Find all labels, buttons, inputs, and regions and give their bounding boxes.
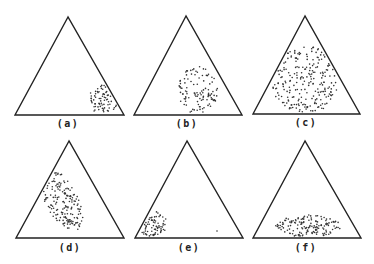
data-point <box>275 225 277 227</box>
data-point <box>296 57 298 59</box>
data-point <box>65 198 67 200</box>
data-point <box>157 234 159 236</box>
panel-label: (b) <box>176 118 199 129</box>
data-point <box>163 229 165 231</box>
data-point <box>157 223 159 225</box>
data-point <box>312 65 314 67</box>
data-point <box>160 228 162 230</box>
data-point <box>147 231 149 233</box>
data-point <box>311 73 313 75</box>
data-point <box>60 184 62 186</box>
data-point <box>79 209 81 211</box>
data-point <box>301 102 303 104</box>
data-point <box>186 91 188 93</box>
data-point <box>54 190 56 192</box>
data-point <box>279 70 281 72</box>
data-point <box>292 220 294 222</box>
data-point <box>97 88 99 90</box>
data-point <box>289 87 291 89</box>
data-point <box>103 108 105 110</box>
data-point <box>100 106 102 108</box>
data-point <box>284 105 286 107</box>
scatter-dots <box>141 211 217 237</box>
data-point <box>308 227 310 229</box>
data-point <box>317 49 319 51</box>
data-point <box>324 232 326 234</box>
data-point <box>317 88 319 90</box>
data-point <box>54 181 56 183</box>
data-point <box>286 102 288 104</box>
data-point <box>311 78 313 80</box>
data-point <box>148 219 150 221</box>
data-point <box>317 66 319 68</box>
data-point <box>99 98 101 100</box>
data-point <box>296 75 298 77</box>
data-point <box>279 225 281 227</box>
data-point <box>324 75 326 77</box>
data-point <box>78 200 80 202</box>
data-point <box>194 94 196 96</box>
data-point <box>318 94 320 96</box>
data-point <box>199 109 201 111</box>
data-point <box>60 174 62 176</box>
data-point <box>278 227 280 229</box>
data-point <box>43 191 45 193</box>
data-point <box>315 221 317 223</box>
data-point <box>315 99 317 101</box>
data-point <box>289 228 291 230</box>
data-point <box>143 233 145 235</box>
data-point <box>183 104 185 106</box>
data-point <box>306 233 308 235</box>
data-point <box>54 196 56 198</box>
data-point <box>294 52 296 54</box>
data-point <box>49 207 51 209</box>
data-point <box>297 89 299 91</box>
data-point <box>311 51 313 53</box>
data-point <box>306 227 308 229</box>
data-point <box>203 80 205 82</box>
data-point <box>211 97 213 99</box>
data-point <box>315 215 317 217</box>
data-point <box>45 199 47 201</box>
data-point <box>217 88 219 90</box>
data-point <box>76 217 78 219</box>
data-point <box>289 232 291 234</box>
data-point <box>324 71 326 73</box>
data-point <box>182 93 184 95</box>
data-point <box>203 68 205 70</box>
data-point <box>90 97 92 99</box>
data-point <box>304 69 306 71</box>
data-point <box>281 96 283 98</box>
data-point <box>323 91 325 93</box>
data-point <box>156 226 158 228</box>
data-point <box>196 92 198 94</box>
data-point <box>304 89 306 91</box>
data-point <box>100 100 102 102</box>
data-point <box>277 225 279 227</box>
data-point <box>149 235 151 237</box>
data-point <box>334 227 336 229</box>
data-point <box>58 196 60 198</box>
data-point <box>95 97 97 99</box>
data-point <box>55 174 57 176</box>
data-point <box>282 222 284 224</box>
data-point <box>298 235 300 237</box>
data-point <box>198 104 200 106</box>
data-point <box>197 84 199 86</box>
data-point <box>327 88 329 90</box>
data-point <box>311 48 313 50</box>
data-point <box>288 72 290 74</box>
data-point <box>51 204 53 206</box>
data-point <box>210 105 212 107</box>
data-point <box>287 230 289 232</box>
data-point <box>154 222 156 224</box>
data-point <box>299 109 301 111</box>
data-point <box>208 89 210 91</box>
data-point <box>293 230 295 232</box>
data-point <box>53 197 55 199</box>
data-point <box>314 227 316 229</box>
data-point <box>323 108 325 110</box>
data-point <box>72 221 74 223</box>
data-point <box>302 234 304 236</box>
panel-c: (c) <box>253 16 360 128</box>
